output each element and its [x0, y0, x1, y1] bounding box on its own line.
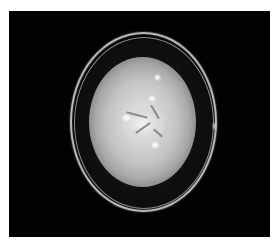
colony-highlight — [149, 96, 155, 101]
colony-highlight — [152, 142, 158, 148]
petri-dish-photo — [9, 11, 270, 237]
colony-highlight — [155, 75, 160, 80]
dish-edge-glint — [213, 123, 216, 129]
colony-highlight — [123, 115, 130, 121]
